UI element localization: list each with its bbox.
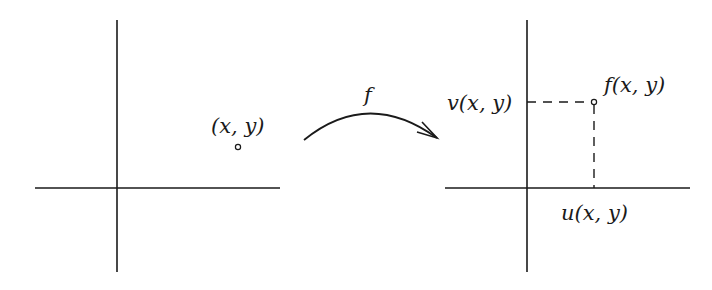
right-plane: f(x, y) v(x, y) u(x, y) [445, 20, 690, 272]
v-projection-label: v(x, y) [447, 91, 512, 115]
u-projection-label: u(x, y) [561, 201, 628, 225]
left-point-marker [235, 144, 240, 149]
left-point-label: (x, y) [211, 114, 264, 138]
mapping-arc [304, 113, 437, 140]
mapping-label: f [362, 83, 375, 107]
arrowhead-icon [417, 122, 437, 138]
mapping-arrow: f [304, 83, 437, 140]
image-point-label: f(x, y) [602, 73, 665, 97]
complex-mapping-diagram: (x, y) f f(x, y) v(x, y) u(x, y) [0, 0, 712, 290]
diagram-svg: (x, y) f f(x, y) v(x, y) u(x, y) [0, 0, 712, 290]
right-point-marker [591, 99, 596, 104]
left-plane: (x, y) [35, 20, 280, 272]
